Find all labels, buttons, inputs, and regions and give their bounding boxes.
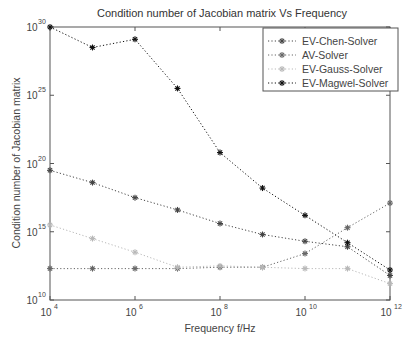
legend-label: EV-Magwel-Solver (302, 77, 389, 89)
y-tick-exponent: 15 (38, 223, 46, 230)
y-axis-label: Condition number of Jacobian matrix (10, 77, 22, 249)
y-tick-label: 10 (26, 295, 38, 306)
legend-label: EV-Chen-Solver (302, 35, 378, 47)
y-tick-exponent: 10 (38, 291, 46, 298)
y-tick-exponent: 30 (38, 18, 46, 25)
x-tick-exponent: 4 (54, 303, 58, 310)
x-tick-exponent: 8 (224, 303, 228, 310)
x-tick-label: 10 (40, 307, 52, 318)
y-tick-exponent: 25 (38, 86, 46, 93)
chart: Condition number of Jacobian matrix Vs F… (0, 0, 409, 344)
x-tick-label: 10 (380, 307, 392, 318)
x-tick-label: 10 (295, 307, 307, 318)
y-tick-label: 10 (26, 90, 38, 101)
x-tick-exponent: 6 (139, 303, 143, 310)
legend-label: EV-Gauss-Solver (302, 63, 383, 75)
y-tick-exponent: 20 (38, 155, 46, 162)
legend-label: AV-Solver (302, 49, 348, 61)
x-tick-exponent: 12 (394, 303, 402, 310)
y-tick-label: 10 (26, 22, 38, 33)
x-tick-exponent: 10 (309, 303, 317, 310)
chart-title: Condition number of Jacobian matrix Vs F… (97, 7, 348, 19)
x-axis-label: Frequency f/Hz (184, 322, 255, 334)
legend: EV-Chen-SolverAV-SolverEV-Gauss-SolverEV… (263, 28, 398, 91)
y-tick-label: 10 (26, 227, 38, 238)
y-tick-label: 10 (26, 159, 38, 170)
x-tick-label: 10 (125, 307, 137, 318)
x-tick-label: 10 (210, 307, 222, 318)
